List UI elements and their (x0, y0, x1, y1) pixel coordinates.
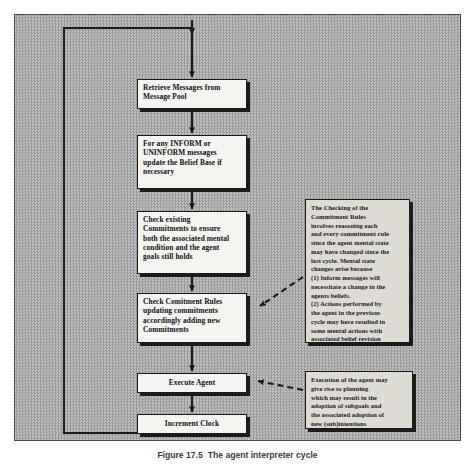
note-line: may have changed since the (311, 248, 404, 256)
note-line: associated belief revision (311, 335, 404, 343)
node-increment-clock[interactable]: Increment Clock (137, 414, 247, 434)
figure-caption: Figure 17.5The agent interpreter cycle (0, 450, 475, 469)
node-line: Increment Clock (165, 419, 220, 428)
node-line: accordingly adding new (143, 316, 241, 325)
node-line: Execute Agent (169, 378, 216, 387)
note-line: Execution of the agent may (311, 376, 407, 384)
note-line: cycle may have resulted in (311, 318, 404, 326)
note-line: since the agent mental state (311, 239, 404, 247)
node-line: Message Pool (143, 92, 241, 101)
node-line: updating commitments (143, 306, 241, 315)
node-line: UNINFORM messages (143, 148, 241, 157)
note-line: give rise to planning (311, 385, 407, 393)
figure-caption-text: The agent interpreter cycle (208, 450, 318, 460)
note-execute-agent[interactable]: Execution of the agent may give rise to … (305, 371, 413, 429)
note-commitment-rules[interactable]: The Checking of the Commitment Rules inv… (305, 199, 410, 343)
note-line: some mental actions with (311, 327, 404, 335)
node-line: For any INFORM or (143, 139, 241, 148)
note-line: (1) Inform messages will (311, 274, 404, 282)
note-line: The Checking of the (311, 204, 404, 212)
note-line: which may result in the (311, 394, 407, 402)
node-check-commitment-rules[interactable]: Check Comitment Rules updating commitmen… (137, 293, 247, 343)
figure-frame: Retrieve Messages from Message Pool For … (14, 14, 461, 441)
node-line: Retrieve Messages from (143, 83, 241, 92)
note-line: adoption of subgoals and (311, 402, 407, 410)
note-line: necessitate a change in the (311, 283, 404, 291)
note-line: the associated adoption of (311, 411, 407, 419)
node-update-belief-base[interactable]: For any INFORM or UNINFORM messages upda… (137, 135, 247, 189)
note-line: agents beliefs. (311, 292, 404, 300)
node-line: condition and the agent (143, 243, 241, 252)
note-line: changes arise because (311, 265, 404, 273)
node-line: Check Comitment Rules (143, 297, 241, 306)
node-line: goals still holds (143, 252, 241, 261)
node-line: necessary (143, 167, 241, 176)
note-line: Commitment Rules (311, 213, 404, 221)
note-line: new (sub)intentions (311, 420, 407, 428)
node-line: both the associated mental (143, 234, 241, 243)
connector-note-to-execute-agent (258, 381, 303, 390)
connector-note-to-commitment-rules (260, 277, 303, 306)
note-line: the agent in the previous (311, 309, 404, 317)
note-line: and every commitment rule (311, 230, 404, 238)
note-line: last cycle. Mental state (311, 257, 404, 265)
flowchart-canvas: Retrieve Messages from Message Pool For … (15, 15, 461, 441)
node-line: Check existing (143, 215, 241, 224)
node-line: update the Belief Base if (143, 158, 241, 167)
node-retrieve-messages[interactable]: Retrieve Messages from Message Pool (137, 79, 247, 109)
node-line: Commitments (143, 325, 241, 334)
node-execute-agent[interactable]: Execute Agent (137, 373, 247, 393)
note-line: (2) Actions performed by (311, 300, 404, 308)
node-line: Commitments to ensure (143, 224, 241, 233)
node-check-existing-commitments[interactable]: Check existing Commitments to ensure bot… (137, 211, 247, 274)
figure-caption-number: Figure 17.5 (157, 450, 202, 460)
figure-root: Retrieve Messages from Message Pool For … (0, 0, 475, 469)
note-line: involves reasoning each (311, 222, 404, 230)
